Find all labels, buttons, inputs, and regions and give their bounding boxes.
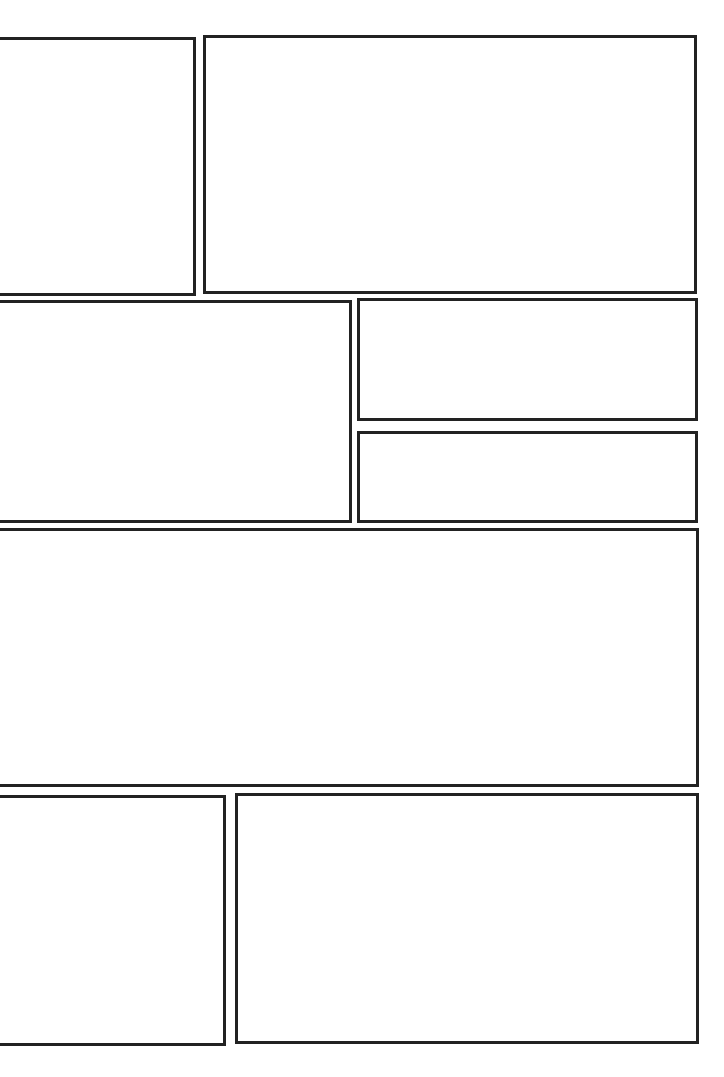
panel-3 (0, 300, 352, 523)
panel-8 (235, 793, 699, 1044)
panel-6 (0, 528, 699, 787)
panel-5 (357, 431, 698, 523)
panel-2 (203, 35, 697, 294)
comic-page (0, 0, 724, 1077)
panel-7 (0, 795, 226, 1046)
panel-1 (0, 37, 196, 296)
panel-4 (357, 298, 698, 421)
